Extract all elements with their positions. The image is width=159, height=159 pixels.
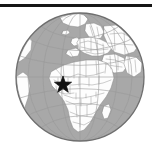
globe-graphic: [0, 0, 159, 159]
locator-map-figure: Orthographic globe centered on Africa an…: [0, 0, 159, 159]
globe-container: [0, 0, 159, 159]
